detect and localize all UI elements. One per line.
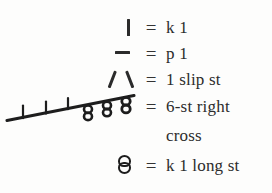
knit-bar-icon	[127, 19, 130, 36]
equals-sign: =	[140, 40, 162, 66]
cable-cross-svg	[4, 86, 138, 126]
legend-description: k 1 long st	[166, 152, 240, 178]
purl-stitch-symbol	[0, 40, 136, 66]
legend-description: k 1	[166, 14, 188, 40]
cable-bobble-icon	[84, 106, 92, 121]
cable-cross-diagram	[4, 86, 138, 126]
bobble-eight-icon	[117, 155, 130, 175]
legend-row-continuation: cross	[0, 122, 272, 148]
equals-sign: =	[140, 93, 162, 119]
legend-description-line2: cross	[166, 122, 202, 148]
cable-diagonal-line	[7, 96, 134, 121]
equals-sign: =	[140, 14, 162, 40]
purl-dash-icon	[115, 51, 130, 54]
equals-sign: =	[140, 152, 162, 178]
cable-bobble-icon	[103, 102, 111, 117]
slip-v-icon	[112, 71, 130, 87]
equals-sign: =	[140, 66, 162, 92]
legend-row: = k 1	[0, 14, 272, 40]
legend-description: p 1	[166, 40, 188, 66]
legend-row: = p 1	[0, 40, 272, 66]
cable-bobble-icon	[122, 97, 130, 113]
legend-description: 1 slip st	[166, 66, 221, 92]
long-stitch-symbol	[0, 152, 136, 178]
knit-stitch-symbol	[0, 14, 136, 40]
symbol-legend: = k 1 = p 1 = 1 slip st = 6-st right	[0, 0, 272, 193]
legend-description: 6-st right	[166, 93, 230, 119]
legend-row: = k 1 long st	[0, 152, 272, 178]
